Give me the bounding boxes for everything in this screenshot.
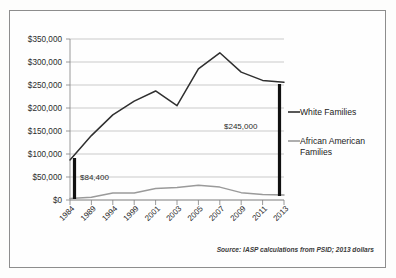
xtick-label-1989: 1989 [79, 204, 98, 223]
ytick-label-350000: $350,000 [28, 35, 63, 44]
legend-label-african-american-families-line1[interactable]: African American [300, 136, 365, 146]
ytick-label-50000: $50,000 [32, 173, 62, 182]
xtick-label-1999: 1999 [122, 204, 141, 223]
series-line-white-families [70, 53, 284, 160]
gap-bracket-1984: $84,400 [75, 158, 110, 199]
ytick-label-300000: $300,000 [28, 58, 63, 67]
gap-bracket-2013: $245,000 [224, 84, 280, 196]
chart-canvas: $350,000 $300,000 $250,000 $200,000 $150… [0, 0, 396, 278]
xtick-label-2011: 2011 [250, 204, 269, 223]
xtick-label-1984: 1984 [57, 204, 76, 223]
ytick-label-250000: $250,000 [28, 81, 63, 90]
source-note: Source: IASP calculations from PSID; 201… [217, 246, 375, 254]
xtick-label-2005: 2005 [186, 204, 205, 223]
ytick-label-100000: $100,000 [28, 150, 63, 159]
legend-label-white-families[interactable]: White Families [300, 107, 356, 117]
legend-label-african-american-families-line2[interactable]: Families [300, 147, 332, 157]
ytick-label-200000: $200,000 [28, 104, 63, 113]
xtick-label-2013: 2013 [271, 204, 290, 223]
ytick-label-0: $0 [53, 196, 63, 205]
xtick-label-2007: 2007 [207, 204, 226, 223]
ytick-label-150000: $150,000 [28, 127, 63, 136]
xtick-label-2009: 2009 [229, 204, 248, 223]
gap-label-1984: $84,400 [80, 173, 109, 182]
y-axis-tick-labels: $350,000 $300,000 $250,000 $200,000 $150… [28, 35, 63, 205]
x-axis-tick-labels: 1984 1989 1994 1999 2001 2003 2005 2007 … [57, 204, 290, 223]
y-axis [66, 39, 70, 200]
chart-figure: $350,000 $300,000 $250,000 $200,000 $150… [0, 0, 396, 278]
xtick-label-2003: 2003 [164, 204, 183, 223]
series-line-african-american-families [70, 185, 284, 198]
chart-legend: White Families African American Families [288, 107, 365, 157]
gap-label-2013: $245,000 [224, 122, 258, 131]
xtick-label-2001: 2001 [143, 204, 162, 223]
xtick-label-1994: 1994 [100, 204, 119, 223]
